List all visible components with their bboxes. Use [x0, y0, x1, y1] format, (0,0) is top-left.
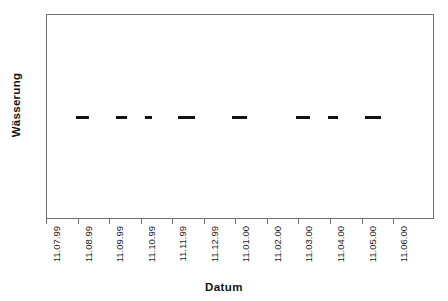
- data-mark: [328, 116, 338, 119]
- x-axis-tick-label: 11.10.99: [146, 226, 157, 278]
- x-axis-tick-label: 11.05.00: [367, 226, 378, 278]
- x-axis-tick: [393, 219, 394, 224]
- x-axis-tick-label: 11.09.99: [114, 226, 125, 278]
- x-axis-tick: [298, 219, 299, 224]
- x-axis-tick-label: 11.02.00: [272, 226, 283, 278]
- x-axis-tick: [362, 219, 363, 224]
- x-axis-tick-label: 11.11.99: [177, 226, 188, 278]
- data-mark: [232, 116, 247, 119]
- x-axis-tick: [204, 219, 205, 224]
- data-mark: [145, 116, 152, 119]
- x-axis-tick: [46, 219, 47, 224]
- x-axis-tick-label: 11.03.00: [303, 226, 314, 278]
- chart-figure: 11.07.9911.08.9911.09.9911.10.9911.11.99…: [0, 0, 448, 301]
- y-axis-title: Wässerung: [8, 50, 24, 160]
- data-mark: [76, 116, 89, 119]
- x-axis-title: Datum: [0, 281, 448, 293]
- x-axis-tick: [267, 219, 268, 224]
- x-axis-tick-label: 11.12.99: [209, 226, 220, 278]
- x-axis-tick-label: 11.01.00: [240, 226, 251, 278]
- x-axis-tick-label: 11.07.99: [51, 226, 62, 278]
- x-axis-tick-labels: 11.07.9911.08.9911.09.9911.10.9911.11.99…: [0, 226, 448, 278]
- data-mark: [296, 116, 310, 119]
- x-axis-tick: [330, 219, 331, 224]
- x-axis-tick: [172, 219, 173, 224]
- x-axis-tick-label: 11.08.99: [83, 226, 94, 278]
- x-axis-tick: [78, 219, 79, 224]
- x-axis-tick: [141, 219, 142, 224]
- data-mark: [116, 116, 127, 119]
- x-axis-ticks: [0, 219, 448, 225]
- x-axis-tick-label: 11.06.00: [398, 226, 409, 278]
- x-axis-tick-label: 11.04.00: [335, 226, 346, 278]
- x-axis-tick: [109, 219, 110, 224]
- data-mark: [178, 116, 195, 119]
- x-axis-tick: [235, 219, 236, 224]
- data-mark: [365, 116, 381, 119]
